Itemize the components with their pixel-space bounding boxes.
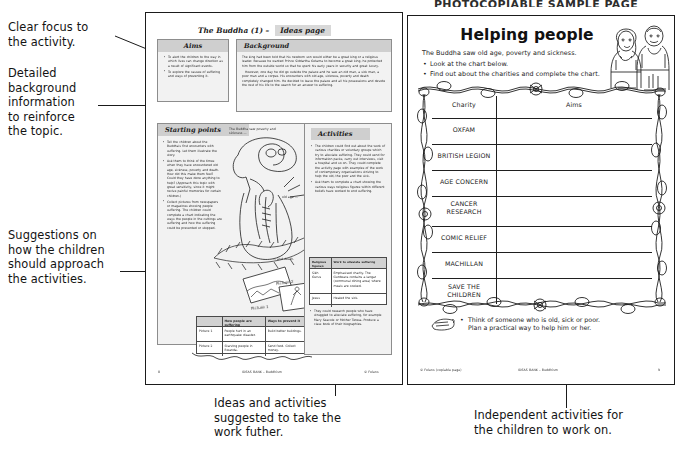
chart-charity-cancer-research: CANCER RESEARCH [432,200,496,215]
right-page-footer-page-number: 9 [658,368,660,372]
chart-header-aims: Aims [496,101,652,109]
table-row: How people are suffering Ways to prevent… [197,317,307,327]
chart-charity-age-concern: AGE CONCERN [430,178,498,186]
list-item: Ask them to think of the times when they… [162,159,222,198]
table-cell: Build better buildings. [266,327,307,341]
right-page-task: Think of someone who is old, sick or poo… [460,316,650,333]
starting-points-bullet-list: Tell the children about the Buddha's fir… [162,140,222,230]
activities-bullet-list-2: They could research people who have stru… [309,309,387,328]
chart-aims-cancer-research[interactable] [498,200,650,224]
starting-points-body: Tell the children about the Buddha's fir… [162,140,222,232]
left-page-title: The Buddha (1) – Ideas page [198,25,390,36]
right-page-activity: Helping people The Buddha saw old age, p… [407,15,675,385]
charity-chart: Charity Aims OXFAM BRITISH LEGION AGE CO… [432,96,652,304]
table-cell [197,317,223,326]
chart-aims-age-concern[interactable] [498,174,650,194]
chart-rule [432,170,652,171]
chart-header-charity: Charity [432,101,496,109]
table-row: Picture 1 People hurt in an earthquake d… [197,327,307,342]
table-cell: How people are suffering [223,317,266,326]
activities-bullet-list-bottom: They could research people who have stru… [309,309,387,326]
chart-charity-british-legion: BRITISH LEGION [430,152,498,160]
table-cell: Healed the sick. [332,294,387,307]
activities-heading: Activities [311,128,370,140]
religious-figures-table: Religious figure/s Work to alleviate suf… [309,257,387,305]
annotation-detailed-background: Detailed background information to reinf… [8,66,148,139]
list-item: Look at the chart below. [422,60,600,68]
chart-charity-oxfam: OXFAM [432,126,496,134]
chart-rule [432,196,652,197]
left-page-title-main: The Buddha (1) – [198,26,269,35]
list-item: Find out about the charities and complet… [422,70,600,78]
chart-aims-macmillan[interactable] [498,256,650,276]
list-item: Collect pictures from newspapers or maga… [162,200,222,230]
left-page-title-tag: Ideas page [275,25,331,36]
background-box: Background The king had been told that h… [236,39,392,112]
paragraph: However, one day he did go outside the p… [242,70,386,87]
table-cell: Sikh Gurus [310,269,332,293]
list-item: To explore the causes of suffering and w… [163,70,223,79]
chart-aims-comic-relief[interactable] [498,230,650,250]
left-page-ideas: The Buddha (1) – Ideas page Aims To aler… [145,12,403,385]
table-row: Religious figure/s Work to alleviate suf… [310,258,386,269]
list-item: Tell the children about the Buddha's fir… [162,140,222,157]
list-item: Ask them to complete a chart showing the… [310,180,386,193]
chart-column-divider [496,96,497,304]
photocopiable-banner: PHOTOCOPIABLE SAMPLE PAGE [405,0,667,7]
book-spread: The Buddha (1) – Ideas page Aims To aler… [145,12,675,387]
chart-rule [432,278,652,279]
chart-aims-british-legion[interactable] [498,148,650,168]
right-page-instructions: Look at the chart below. Find out about … [422,60,600,80]
right-page-title: Helping people [432,26,622,44]
table-cell: Emphasised charity. The Gurdwara contain… [332,269,387,293]
activities-bullet-list: The children could find out about the wo… [310,144,386,193]
chart-rule [432,252,652,253]
paragraph: The king had been told that his newborn … [242,55,386,68]
photocopiable-sample-page: PHOTOCOPIABLE SAMPLE PAGE Clear focus to… [0,0,683,449]
table-row: Jesus Healed the sick. [310,294,386,307]
vine-border-left [416,92,433,304]
list-item: To alert the children to the way in whic… [163,55,223,68]
table-cell: People hurt in an earthquake disaster. [223,327,266,341]
chart-aims-save-the-children[interactable] [498,282,650,302]
chart-charity-comic-relief: COMIC RELIEF [430,234,498,242]
right-page-footer-series: IDEAS BANK – Buddhism [518,368,558,372]
chart-charity-save-the-children: SAVE THE CHILDREN [432,283,496,298]
annotation-ideas-activities: Ideas and activities suggested to take t… [214,396,394,440]
table-cell: Religious figure/s [310,258,332,268]
chart-rule [432,226,652,227]
annotation-suggestions: Suggestions on how the children should a… [8,228,153,286]
table-row: Sikh Gurus Emphasised charity. The Gurdw… [310,269,386,294]
list-item: The children could find out about the wo… [310,144,386,179]
right-page-footer-copyright: © Folens (copiable page) [420,368,462,372]
torn-edge-decoration [192,351,312,361]
vine-border-top [416,80,668,97]
chart-aims-oxfam[interactable] [498,122,650,142]
vine-border-right [651,92,668,304]
aims-box: Aims To alert the children to the way in… [157,39,229,102]
scroll-icon [430,316,456,332]
table-cell: Ways to prevent it [266,317,307,326]
list-item: They could research people who have stru… [309,309,387,326]
left-page-footer-series: IDEAS BANK – Buddhism [242,370,282,374]
task-text: Think of someone who is old, sick or poo… [460,316,650,333]
table-cell: Jesus [310,294,332,307]
chart-rule [432,118,652,119]
left-page-footer-copyright: © Folens [364,370,379,374]
background-body: The king had been told that his newborn … [237,52,391,92]
aims-bullet-list: To alert the children to the way in whic… [163,55,223,78]
table-cell: Work to alleviate suffering [332,258,387,268]
chart-rule [432,144,652,145]
suffering-table: How people are suffering Ways to prevent… [196,316,308,354]
annotation-independent-activities: Independent activities for the children … [474,408,674,437]
left-page-footer-page-number: 8 [158,370,160,374]
chart-charity-macmillan: MACHILLAN [432,260,496,268]
right-page-subtitle: The Buddha saw old age, poverty and sick… [422,49,577,57]
aims-heading: Aims [158,40,228,52]
table-cell: Picture 1 [197,327,223,341]
background-heading: Background [237,40,391,52]
